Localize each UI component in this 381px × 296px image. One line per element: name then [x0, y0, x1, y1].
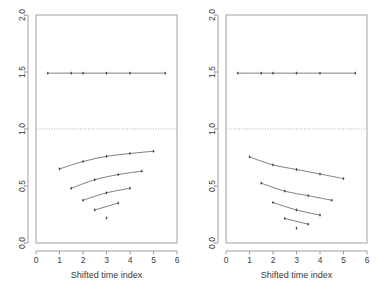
- data-point-curve-3-1: [296, 209, 298, 212]
- y-tick-label-0: 0.0: [207, 237, 217, 249]
- x-tick-label-6: 6: [175, 255, 180, 265]
- series-line-curve-1: [60, 151, 154, 169]
- y-tick-label-2: 1.0: [17, 123, 27, 135]
- x-tick-label-4: 4: [128, 255, 133, 265]
- series-line-curve-2: [261, 183, 332, 200]
- y-tick-label-4: 2.0: [17, 9, 27, 21]
- plot-panel-right: 0123456Shifted time index0.00.51.01.52.0: [190, 0, 380, 296]
- data-point-flat-upper-2: [272, 72, 274, 75]
- data-point-curve-3-0: [272, 201, 274, 204]
- y-tick-label-0: 0.0: [17, 237, 27, 249]
- data-point-flat-upper-0: [237, 72, 239, 75]
- data-point-single-point-0: [296, 227, 298, 230]
- data-point-curve-1-2: [296, 168, 298, 171]
- plot-svg-right: 0123456Shifted time index0.00.51.01.52.0: [190, 0, 380, 296]
- series-line-curve-2: [71, 171, 142, 188]
- y-tick-label-1: 0.5: [207, 180, 217, 192]
- data-point-flat-upper-1: [70, 72, 72, 75]
- y-tick-label-3: 1.5: [17, 66, 27, 78]
- data-point-curve-2-3: [331, 199, 333, 202]
- x-tick-label-5: 5: [341, 255, 346, 265]
- x-axis-title: Shifted time index: [261, 270, 333, 280]
- data-point-flat-upper-1: [260, 72, 262, 75]
- data-point-flat-upper-3: [106, 72, 108, 75]
- data-point-curve-1-4: [343, 177, 345, 180]
- panel-right-content: 0123456Shifted time index0.00.51.01.52.0: [207, 9, 370, 280]
- data-point-curve-3-2: [319, 214, 321, 217]
- x-tick-label-2: 2: [81, 255, 86, 265]
- x-tick-label-1: 1: [247, 255, 252, 265]
- y-tick-label-1: 0.5: [17, 180, 27, 192]
- x-tick-label-0: 0: [34, 255, 39, 265]
- series-line-curve-4: [285, 218, 309, 224]
- data-point-flat-upper-0: [47, 72, 49, 75]
- data-point-curve-2-2: [117, 173, 119, 176]
- data-point-curve-2-1: [284, 190, 286, 193]
- plot-svg-left: 0123456Shifted time index0.00.51.01.52.0: [0, 0, 190, 296]
- x-tick-label-1: 1: [57, 255, 62, 265]
- data-point-curve-2-0: [70, 187, 72, 190]
- data-point-curve-4-0: [284, 217, 286, 220]
- series-line-curve-4: [95, 203, 119, 210]
- data-point-curve-2-0: [260, 182, 262, 185]
- data-point-curve-3-2: [129, 187, 131, 190]
- panel-left-content: 0123456Shifted time index0.00.51.01.52.0: [17, 9, 180, 280]
- data-point-curve-1-1: [82, 160, 84, 163]
- data-point-curve-3-1: [106, 191, 108, 194]
- y-tick-label-3: 1.5: [207, 66, 217, 78]
- plot-panel-left: 0123456Shifted time index0.00.51.01.52.0: [0, 0, 190, 296]
- data-point-curve-2-2: [307, 194, 309, 197]
- data-point-flat-upper-5: [164, 72, 166, 75]
- data-point-flat-upper-2: [82, 72, 84, 75]
- series-line-curve-1: [250, 157, 344, 179]
- x-tick-label-3: 3: [294, 255, 299, 265]
- series-line-curve-3: [83, 188, 130, 200]
- data-point-curve-1-0: [59, 168, 61, 171]
- data-point-curve-2-1: [94, 178, 96, 181]
- data-point-curve-4-1: [117, 202, 119, 205]
- data-point-flat-upper-5: [354, 72, 356, 75]
- x-tick-label-3: 3: [104, 255, 109, 265]
- data-point-curve-1-1: [272, 164, 274, 167]
- y-tick-label-4: 2.0: [207, 9, 217, 21]
- x-tick-label-5: 5: [151, 255, 156, 265]
- data-point-curve-1-3: [129, 152, 131, 155]
- data-point-curve-1-2: [106, 155, 108, 158]
- x-tick-label-6: 6: [365, 255, 370, 265]
- data-point-curve-4-0: [94, 209, 96, 212]
- data-point-curve-1-4: [153, 150, 155, 153]
- data-point-curve-1-0: [249, 156, 251, 159]
- data-point-curve-4-1: [307, 223, 309, 226]
- y-tick-label-2: 1.0: [207, 123, 217, 135]
- figure-container: 0123456Shifted time index0.00.51.01.52.0…: [0, 0, 381, 296]
- x-tick-label-2: 2: [271, 255, 276, 265]
- data-point-flat-upper-3: [296, 72, 298, 75]
- x-tick-label-0: 0: [224, 255, 229, 265]
- x-tick-label-4: 4: [318, 255, 323, 265]
- data-point-flat-upper-4: [319, 72, 321, 75]
- data-point-curve-3-0: [82, 199, 84, 202]
- data-point-single-point-0: [106, 217, 108, 220]
- data-point-flat-upper-4: [129, 72, 131, 75]
- data-point-curve-1-3: [319, 173, 321, 176]
- x-axis-title: Shifted time index: [71, 270, 143, 280]
- data-point-curve-2-3: [141, 170, 143, 173]
